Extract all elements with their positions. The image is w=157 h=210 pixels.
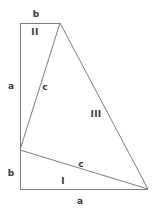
label-b-left: b: [8, 169, 14, 178]
label-region-1: I: [61, 177, 65, 186]
figure-svg: [0, 0, 157, 210]
label-a-bottom: a: [77, 197, 83, 206]
label-c-upper: c: [42, 83, 47, 92]
label-region-3: III: [91, 110, 102, 119]
label-c-lower: c: [78, 160, 83, 169]
label-a-left: a: [8, 82, 14, 91]
geometric-proof-diagram: b II a c III b c I a: [0, 0, 157, 210]
label-region-2: II: [31, 28, 38, 37]
hypotenuse-c-upper-line: [20, 23, 60, 150]
hypotenuse-c-lower-line: [20, 150, 148, 189]
label-b-top: b: [33, 10, 39, 19]
long-edge-third-line: [60, 23, 148, 189]
